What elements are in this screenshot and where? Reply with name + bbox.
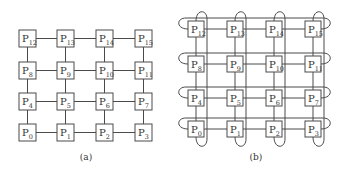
processor-node-P11: P11 bbox=[305, 56, 323, 73]
processor-node-P5: P5 bbox=[57, 93, 74, 110]
processor-node-P3: P3 bbox=[305, 121, 321, 138]
processor-node-P9: P9 bbox=[227, 56, 243, 73]
processor-node-P9: P9 bbox=[57, 62, 74, 79]
processor-node-P6: P6 bbox=[96, 93, 113, 110]
processor-node-P7: P7 bbox=[135, 93, 152, 110]
processor-node-P14: P14 bbox=[266, 21, 284, 38]
processor-node-P12: P12 bbox=[19, 30, 37, 47]
network-topology-diagram: P12P13P14P15P8P9P10P11P4P5P6P7P0P1P2P3 P… bbox=[0, 0, 353, 173]
mesh-panel: P12P13P14P15P8P9P10P11P4P5P6P7P0P1P2P3 bbox=[19, 30, 153, 141]
processor-node-P15: P15 bbox=[135, 30, 153, 47]
processor-node-P1: P1 bbox=[227, 121, 243, 138]
processor-node-P8: P8 bbox=[19, 62, 36, 79]
processor-node-P10: P10 bbox=[96, 62, 114, 79]
processor-node-P0: P0 bbox=[19, 124, 36, 141]
processor-node-P7: P7 bbox=[305, 90, 321, 107]
processor-node-P6: P6 bbox=[266, 90, 282, 107]
processor-node-P4: P4 bbox=[19, 93, 36, 110]
processor-node-P10: P10 bbox=[266, 56, 284, 73]
links bbox=[28, 39, 144, 133]
processor-node-P15: P15 bbox=[305, 21, 323, 38]
processor-node-P8: P8 bbox=[188, 56, 204, 73]
processor-node-P2: P2 bbox=[96, 124, 113, 141]
processor-node-P13: P13 bbox=[227, 21, 245, 38]
processor-node-P4: P4 bbox=[188, 90, 204, 107]
caption-b: (b) bbox=[250, 152, 263, 162]
caption-a: (a) bbox=[80, 152, 92, 162]
processor-node-P14: P14 bbox=[96, 30, 114, 47]
processor-node-P13: P13 bbox=[57, 30, 75, 47]
processor-node-P5: P5 bbox=[227, 90, 243, 107]
processor-node-P11: P11 bbox=[135, 62, 153, 79]
processor-node-P2: P2 bbox=[266, 121, 282, 138]
torus-panel: P12P13P14P15P8P9P10P11P4P5P6P7P0P1P2P3 bbox=[179, 12, 331, 147]
processor-node-P0: P0 bbox=[188, 121, 204, 138]
processor-node-P3: P3 bbox=[135, 124, 152, 141]
processor-node-P12: P12 bbox=[188, 21, 206, 38]
processor-node-P1: P1 bbox=[57, 124, 74, 141]
